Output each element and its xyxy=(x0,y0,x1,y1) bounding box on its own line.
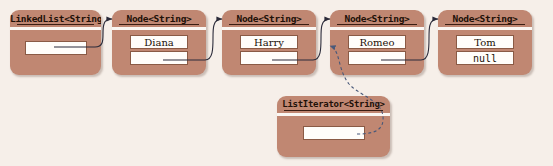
node-3-data-field: Romeo xyxy=(348,35,406,49)
linked-list-object-diagram: dashed --> Node(Romeo) data field --> Li… xyxy=(0,0,553,166)
header-underline xyxy=(119,24,199,25)
node-4-header-label: Node<String> xyxy=(452,13,517,24)
node-2-header: Node<String> xyxy=(222,10,316,27)
node-1-fields: Diana xyxy=(112,30,206,71)
node-1-data-field: Diana xyxy=(130,35,188,49)
node-1-header: Node<String> xyxy=(112,10,206,27)
list-iterator-header: ListIterator<String> xyxy=(277,96,390,113)
list-iterator-header-label: ListIterator<String> xyxy=(282,99,384,109)
node-1-next-field xyxy=(130,51,188,65)
node-3-header-label: Node<String> xyxy=(344,13,409,24)
linked-list-fields xyxy=(10,30,101,61)
header-underline xyxy=(229,24,309,25)
node-4: Node<String> Tom null xyxy=(438,10,532,75)
linked-list-object: LinkedList<String> xyxy=(10,10,101,75)
node-4-header: Node<String> xyxy=(438,10,532,27)
header-underline xyxy=(337,24,417,25)
node-2-fields: Harry xyxy=(222,30,316,71)
linked-list-header-label: LinkedList<String> xyxy=(10,13,101,24)
node-1-header-label: Node<String> xyxy=(126,13,191,24)
node-4-data-field: Tom xyxy=(456,35,514,49)
linked-list-header: LinkedList<String> xyxy=(10,10,101,27)
list-iterator-object: ListIterator<String> xyxy=(277,96,390,157)
header-underline xyxy=(17,24,94,25)
node-2: Node<String> Harry xyxy=(222,10,316,75)
node-4-fields: Tom null xyxy=(438,30,532,71)
node-2-header-label: Node<String> xyxy=(236,13,301,24)
node-3-fields: Romeo xyxy=(330,30,424,71)
header-underline xyxy=(445,24,525,25)
list-iterator-fields xyxy=(277,116,390,146)
node-3-header: Node<String> xyxy=(330,10,424,27)
node-3: Node<String> Romeo xyxy=(330,10,424,75)
node-4-next-field: null xyxy=(456,51,514,65)
node-2-data-field: Harry xyxy=(240,35,298,49)
node-2-next-field xyxy=(240,51,298,65)
list-iterator-position-field xyxy=(303,126,365,140)
linked-list-first-field xyxy=(25,41,87,55)
node-1: Node<String> Diana xyxy=(112,10,206,75)
header-underline xyxy=(284,110,383,111)
node-3-next-field xyxy=(348,51,406,65)
